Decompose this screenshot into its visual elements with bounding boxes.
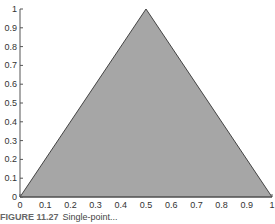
y-tick-label: 0.3 xyxy=(4,136,17,146)
figure-caption: FIGURE 11.27Single-point... xyxy=(0,212,118,222)
x-tick-label: 0.2 xyxy=(64,200,77,210)
x-tick-label: 0.8 xyxy=(215,200,228,210)
x-tick-label: 0.7 xyxy=(190,200,203,210)
y-tick-label: 0.8 xyxy=(4,42,17,52)
x-tick-label: 0.3 xyxy=(89,200,102,210)
y-tick-label: 0.2 xyxy=(4,154,17,164)
y-tick-label: 0.4 xyxy=(4,117,17,127)
x-tick-label: 0.4 xyxy=(115,200,128,210)
caption-text: Single-point... xyxy=(63,212,118,222)
y-tick-label: 0 xyxy=(12,192,17,202)
y-tick-label: 0.9 xyxy=(4,23,17,33)
triangle-chart: 00.10.20.30.40.50.60.70.80.91 00.10.20.3… xyxy=(0,0,275,224)
x-tick-label: 0 xyxy=(17,200,22,210)
y-tick-label: 1 xyxy=(12,4,17,14)
y-tick-label: 0.6 xyxy=(4,79,17,89)
caption-label: FIGURE 11.27 xyxy=(0,212,59,222)
x-tick-label: 0.6 xyxy=(165,200,178,210)
x-tick-label: 0.9 xyxy=(241,200,254,210)
y-tick-label: 0.5 xyxy=(4,98,17,108)
triangle-area xyxy=(20,9,272,197)
y-tick-label: 0.7 xyxy=(4,60,17,70)
y-tick-label: 0.1 xyxy=(4,173,17,183)
x-tick-label: 0.5 xyxy=(140,200,153,210)
x-tick-label: 1 xyxy=(269,200,274,210)
x-tick-label: 0.1 xyxy=(39,200,52,210)
